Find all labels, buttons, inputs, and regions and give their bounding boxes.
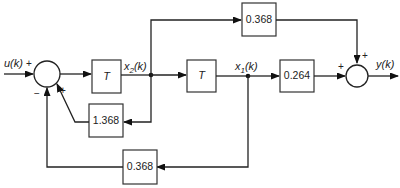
- output-sum-main-plus-sign: +: [338, 61, 344, 72]
- delay-block-1: T: [92, 60, 121, 93]
- x2-inner-feedback-wire: [124, 75, 151, 122]
- output-sum-top-plus-sign: +: [362, 50, 368, 61]
- input-sum-minus-sign: −: [34, 88, 40, 99]
- output-label: y(k): [375, 58, 395, 70]
- inner-feedback-gain-block: 1.368: [89, 104, 123, 137]
- feedforward-to-output-sum-wire: [276, 20, 357, 63]
- delay-block-2: T: [187, 60, 216, 92]
- input-summing-junction: [34, 61, 60, 87]
- output-summing-junction: [346, 65, 368, 87]
- inner-feedback-gain-label: 1.368: [93, 114, 119, 126]
- feedforward-gain-label: 0.368: [246, 13, 272, 25]
- outer-feedback-gain-label: 0.368: [127, 160, 153, 172]
- feedforward-gain-block: 0.368: [242, 3, 276, 36]
- input-label: u(k): [4, 57, 23, 69]
- x1-label: x1(k): [234, 60, 258, 75]
- input-sum-plus-sign: +: [26, 58, 32, 69]
- input-sum-feedback-plus-sign: +: [60, 85, 66, 96]
- block-diagram: u(k) + − + T x2(k) 0.368 + 1.368 T x1(k): [0, 0, 400, 188]
- x2-label: x2(k): [123, 60, 147, 75]
- outer-feedback-gain-block: 0.368: [123, 150, 157, 184]
- output-gain-block: 0.264: [280, 60, 314, 92]
- output-gain-label: 0.264: [284, 69, 310, 81]
